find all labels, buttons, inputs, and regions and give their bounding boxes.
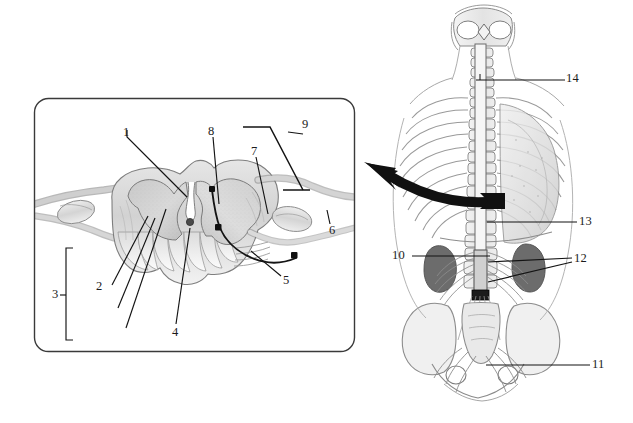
- trunk-label-11: 11: [592, 358, 604, 371]
- trunk-label-10: 10: [392, 249, 405, 262]
- spinal-cord-lumbar-segment: [474, 250, 487, 295]
- panel-label-5: 5: [283, 274, 289, 287]
- cross-section-drawing: [35, 160, 354, 285]
- panel-label-4: 4: [172, 326, 178, 339]
- panel-label-2: 2: [96, 280, 102, 293]
- panel-label-1: 1: [123, 126, 129, 139]
- central-canal: [186, 218, 193, 225]
- panel-label-3: 3: [52, 288, 58, 301]
- panel-label-7: 7: [251, 145, 257, 158]
- leader-6: [327, 210, 330, 224]
- panel-label-9: 9: [302, 118, 308, 131]
- leader-3-bracket: [66, 248, 73, 340]
- sacrum: [462, 303, 500, 364]
- ilium-right: [506, 303, 560, 375]
- panel-label-6: 6: [329, 224, 335, 237]
- trunk-label-12: 12: [574, 252, 587, 265]
- panel-label-8: 8: [208, 125, 214, 138]
- trunk-label-13: 13: [579, 215, 592, 228]
- conus-marker: [472, 290, 489, 300]
- anatomy-figure: 1 2 3 4 5 6 7 8 9 10 11 12 13 14: [0, 0, 633, 423]
- leader-9-tick: [288, 132, 303, 134]
- illustration-layer: [0, 0, 633, 423]
- ilium-left: [402, 303, 456, 375]
- kidney-right: [512, 244, 545, 292]
- trunk-label-14: 14: [566, 72, 579, 85]
